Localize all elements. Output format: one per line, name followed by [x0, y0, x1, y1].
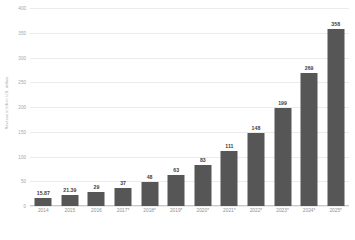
bar-value-label: 199 [278, 100, 287, 106]
bar-group[interactable]: 21.39 [57, 8, 84, 206]
x-axis-tick-label: 2017* [117, 208, 130, 213]
bar[interactable] [327, 29, 344, 206]
bar[interactable] [168, 175, 185, 206]
bar-value-label: 63 [173, 167, 179, 173]
x-axis-tick-label: 2025* [329, 208, 342, 213]
bar-value-label: 37 [120, 180, 126, 186]
bar-value-label: 29 [94, 184, 100, 190]
bar[interactable] [301, 73, 318, 206]
x-axis-tick-labels: 2014201520162017*2018*2019*2020*2021*202… [30, 208, 349, 220]
bar[interactable] [194, 165, 211, 206]
x-axis-tick-label: 2016 [91, 208, 102, 213]
bar[interactable] [221, 151, 238, 206]
bar[interactable] [274, 108, 291, 207]
bar-group[interactable]: 15.87 [30, 8, 57, 206]
bar-value-label: 48 [147, 174, 153, 180]
bar-value-label: 21.39 [63, 187, 76, 193]
x-axis-tick-label: 2024* [303, 208, 316, 213]
bar-value-label: 358 [331, 21, 340, 27]
y-axis-tick-label: 200 [18, 105, 26, 110]
x-axis-tick-label: 2014 [38, 208, 49, 213]
y-axis-tick-label: 400 [18, 6, 26, 11]
x-axis-tick-label: 2020* [197, 208, 210, 213]
bar-group[interactable]: 269 [296, 8, 323, 206]
x-axis-tick-label: 2015 [65, 208, 76, 213]
bar[interactable] [88, 192, 105, 206]
y-axis-tick-labels: 050100150200250300350400 [8, 8, 29, 206]
y-axis-tick-label: 300 [18, 55, 26, 60]
bar-value-label: 269 [305, 65, 314, 71]
bar-chart: Revenue in billion U.S. dollars 05010015… [0, 0, 355, 240]
y-axis-tick-label: 0 [23, 204, 26, 209]
bar-group[interactable]: 199 [269, 8, 296, 206]
bar-group[interactable]: 48 [136, 8, 163, 206]
bar-group[interactable]: 111 [216, 8, 243, 206]
y-axis-tick-label: 150 [18, 129, 26, 134]
bar[interactable] [141, 182, 158, 206]
bar-group[interactable]: 37 [110, 8, 137, 206]
bar-value-label: 83 [200, 157, 206, 163]
x-axis-tick-label: 2023* [276, 208, 289, 213]
bar-group[interactable]: 29 [83, 8, 110, 206]
bar-value-label: 148 [252, 125, 261, 131]
y-axis-tick-label: 50 [21, 179, 26, 184]
y-axis-tick-label: 350 [18, 30, 26, 35]
bar-value-label: 15.87 [37, 190, 50, 196]
bar[interactable] [115, 188, 132, 206]
y-axis-tick-label: 250 [18, 80, 26, 85]
bars-layer: 15.8721.392937486383111148199269358 [30, 8, 349, 206]
bar-group[interactable]: 83 [190, 8, 217, 206]
x-axis-tick-label: 2019* [170, 208, 183, 213]
bar-group[interactable]: 358 [322, 8, 349, 206]
x-axis-tick-label: 2022* [250, 208, 263, 213]
bar-value-label: 111 [225, 143, 233, 149]
bar-group[interactable]: 63 [163, 8, 190, 206]
y-axis-tick-label: 100 [18, 154, 26, 159]
bar-group[interactable]: 148 [243, 8, 270, 206]
x-axis-tick-label: 2021* [223, 208, 236, 213]
gridline [30, 206, 349, 207]
x-axis-tick-label: 2018* [143, 208, 156, 213]
bar[interactable] [247, 133, 264, 206]
bar[interactable] [61, 195, 78, 206]
bar[interactable] [35, 198, 52, 206]
